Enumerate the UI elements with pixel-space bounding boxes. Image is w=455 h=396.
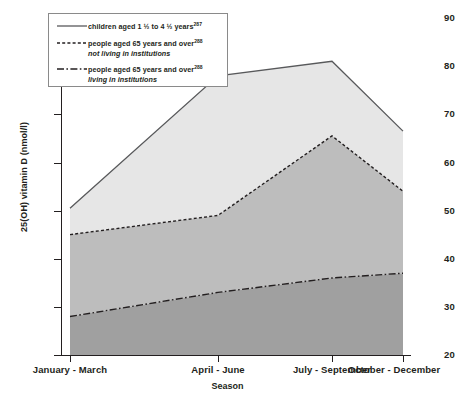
y-tick-label-70: 70	[407, 108, 455, 119]
y-tick-60	[54, 163, 62, 164]
legend-label-elderly-community: people aged 65 years and over288not livi…	[88, 37, 203, 58]
y-tick-20	[54, 355, 62, 356]
legend-community-line1: people aged 65 years and over	[88, 39, 194, 48]
dotted-line-key-icon	[56, 38, 88, 48]
legend-institutions-footnote: 288	[194, 64, 203, 70]
dash-dot-line-key-icon	[56, 64, 88, 74]
y-tick-label-40: 40	[407, 253, 455, 264]
legend-community-footnote: 288	[194, 38, 203, 44]
x-tick-q4	[403, 355, 404, 362]
y-tick-label-20: 20	[407, 349, 455, 360]
chart-legend: children aged 1 ½ to 4 ½ years287 people…	[48, 13, 228, 87]
y-tick-label-80: 80	[407, 60, 455, 71]
x-tick-q1	[70, 355, 71, 362]
legend-children-footnote: 287	[193, 21, 202, 27]
x-axis-title: Season	[0, 381, 455, 391]
legend-institutions-line1: people aged 65 years and over	[88, 65, 194, 74]
vitamin-d-season-chart: 90 80 70 60 50 40 30 20 January - March …	[0, 0, 455, 396]
y-tick-40	[54, 259, 62, 260]
y-tick-50	[54, 211, 62, 212]
x-tick-label-october-december: October - December	[333, 364, 455, 375]
x-axis-line	[61, 355, 411, 356]
x-tick-q2	[218, 355, 219, 362]
y-tick-30	[54, 307, 62, 308]
legend-item-children: children aged 1 ½ to 4 ½ years287	[56, 20, 221, 32]
legend-institutions-line2: living in institutions	[88, 75, 157, 84]
x-tick-label-january-march: January - March	[0, 364, 140, 375]
y-tick-label-50: 50	[407, 205, 455, 216]
y-tick-label-90: 90	[407, 12, 455, 23]
legend-label-children: children aged 1 ½ to 4 ½ years287	[88, 20, 202, 32]
legend-children-mid: to 4	[149, 22, 166, 31]
legend-children-post: years	[172, 22, 193, 31]
y-tick-70	[54, 114, 62, 115]
y-tick-label-60: 60	[407, 157, 455, 168]
y-axis-title: 25(OH) vitamin D (nmol/l)	[19, 77, 29, 277]
legend-item-elderly-institutions: people aged 65 years and over288living i…	[56, 63, 221, 84]
legend-community-line2: not living in institutions	[88, 49, 170, 58]
legend-label-elderly-institutions: people aged 65 years and over288living i…	[88, 63, 203, 84]
y-tick-label-30: 30	[407, 301, 455, 312]
solid-line-key-icon	[56, 21, 88, 31]
legend-children-pre: children aged 1	[88, 22, 144, 31]
legend-item-elderly-community: people aged 65 years and over288not livi…	[56, 37, 221, 58]
series-bands	[70, 61, 403, 355]
x-tick-q3	[332, 355, 333, 362]
